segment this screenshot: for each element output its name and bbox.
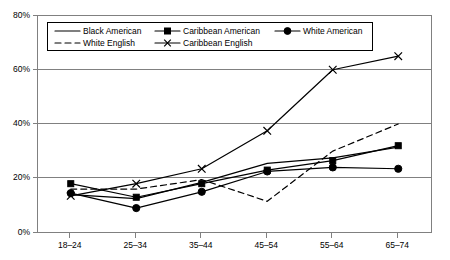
y-tick-label: 0% xyxy=(18,227,31,237)
x-tick-label: 45–54 xyxy=(254,240,278,250)
square-marker-icon xyxy=(199,181,205,187)
x-tick-label: 18–24 xyxy=(58,240,82,250)
square-marker-icon xyxy=(68,181,74,187)
y-tick-label: 60% xyxy=(13,64,30,74)
x-marker-icon xyxy=(263,127,271,135)
series-caribbean-american xyxy=(68,143,402,201)
series-line xyxy=(71,167,399,208)
square-marker-icon xyxy=(133,194,139,200)
x-tick-label: 65–74 xyxy=(385,240,409,250)
line-chart: 80% 60% 40% 20% 0% 18–24 25–34 35–44 45–… xyxy=(0,0,450,260)
series-line xyxy=(71,56,399,196)
legend-entry-white-american: White American xyxy=(275,26,363,36)
gridlines xyxy=(38,69,431,178)
series-line xyxy=(71,124,399,201)
y-axis: 80% 60% 40% 20% 0% xyxy=(13,10,38,237)
x-axis: 18–24 25–34 35–44 45–54 55–64 65–74 xyxy=(58,233,409,251)
y-tick-label: 40% xyxy=(13,118,30,128)
legend-label: White English xyxy=(83,38,135,48)
chart-container: 80% 60% 40% 20% 0% 18–24 25–34 35–44 45–… xyxy=(0,0,450,260)
series-line xyxy=(71,146,399,198)
series-white-english xyxy=(71,124,399,201)
x-tick-label: 25–34 xyxy=(123,240,147,250)
square-marker-icon xyxy=(165,28,171,34)
legend-label: White American xyxy=(303,26,363,36)
circle-marker-icon xyxy=(329,164,336,171)
legend-label: Caribbean American xyxy=(183,26,260,36)
x-tick-label: 55–64 xyxy=(320,240,344,250)
circle-marker-icon xyxy=(198,188,205,195)
x-tick-label: 35–44 xyxy=(189,240,213,250)
legend-label: Black American xyxy=(83,26,142,36)
circle-marker-icon xyxy=(133,204,140,211)
y-tick-label: 80% xyxy=(13,10,30,20)
circle-marker-icon xyxy=(395,165,402,172)
circle-marker-icon xyxy=(284,28,291,35)
legend-label: Caribbean English xyxy=(183,38,253,48)
y-tick-label: 20% xyxy=(13,172,30,182)
series-layer xyxy=(67,52,402,211)
circle-marker-icon xyxy=(264,168,271,175)
square-marker-icon xyxy=(330,158,336,164)
square-marker-icon xyxy=(395,143,401,149)
legend: Black American Caribbean American White … xyxy=(48,23,373,51)
